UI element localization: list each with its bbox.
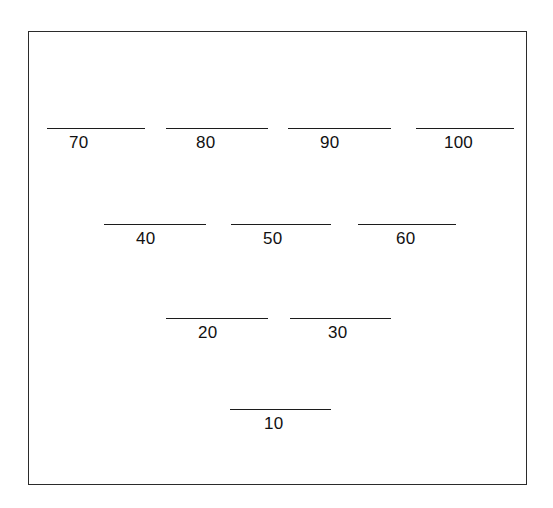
screenshot-root: 708090100405060203010 [0, 0, 553, 508]
answer-label: 20 [198, 322, 217, 343]
figure-frame: 708090100405060203010 [28, 31, 527, 485]
answer-label: 60 [396, 228, 415, 249]
answer-label: 100 [444, 132, 473, 153]
answer-rule-line [358, 224, 456, 225]
answer-rule-line [104, 224, 206, 225]
answer-label: 70 [69, 132, 88, 153]
answer-rule-line [47, 128, 145, 129]
answer-rule-line [416, 128, 514, 129]
answer-rule-line [230, 409, 331, 410]
answer-label: 40 [136, 228, 155, 249]
answer-label: 90 [320, 132, 339, 153]
answer-rule-line [231, 224, 331, 225]
answer-label: 10 [264, 413, 283, 434]
answer-label: 30 [328, 322, 347, 343]
answer-label: 80 [196, 132, 215, 153]
diagram-area: 708090100405060203010 [29, 32, 526, 484]
answer-rule-line [166, 318, 268, 319]
answer-rule-line [290, 318, 391, 319]
answer-label: 50 [263, 228, 282, 249]
answer-rule-line [288, 128, 391, 129]
answer-rule-line [166, 128, 268, 129]
